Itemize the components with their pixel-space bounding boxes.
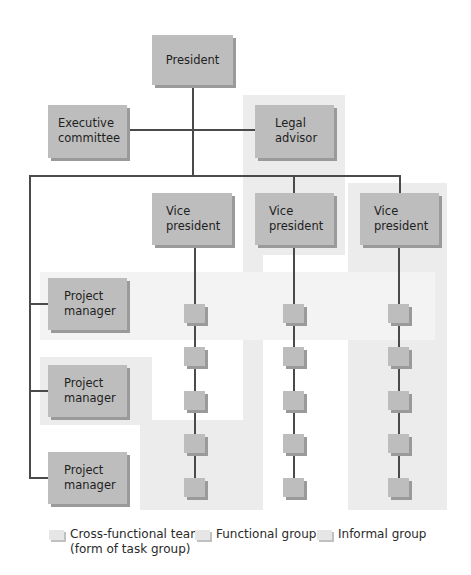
vp2-label-line2: president (269, 219, 334, 234)
legal-advisor-label-line1: Legal (275, 116, 334, 131)
connector-vp3-up (399, 175, 401, 193)
executive-committee-box: Executive committee (48, 105, 127, 158)
legal-advisor-label-line2: advisor (275, 131, 334, 146)
project-manager-box-1: Project manager (48, 278, 127, 330)
legend-item-cross-functional: Cross-functional team (form of task grou… (70, 527, 202, 557)
legend-label-informal: Informal group (338, 527, 426, 541)
subordinate-node (283, 478, 304, 497)
connector-pm3 (29, 477, 48, 479)
subordinate-node (283, 304, 304, 323)
executive-committee-label-line1: Executive (58, 116, 127, 131)
vp1-label-line2: president (166, 219, 232, 234)
subordinate-node (184, 434, 205, 453)
connector-left-trunk (29, 175, 31, 478)
subordinate-node (184, 304, 205, 323)
subordinate-node (283, 347, 304, 366)
functional-swatch-icon (195, 530, 210, 540)
legend-label-cross-functional: Cross-functional team (70, 527, 202, 542)
executive-committee-label-line2: committee (58, 131, 127, 146)
subordinate-node (184, 478, 205, 497)
vice-president-box-3: Vice president (360, 193, 439, 245)
legal-advisor-box: Legal advisor (255, 105, 334, 158)
connector-vp1-column (194, 245, 196, 495)
pm2-label-line2: manager (64, 391, 127, 406)
pm3-label-line1: Project (64, 463, 127, 478)
vp3-label-line1: Vice (374, 204, 439, 219)
vice-president-box-1: Vice president (152, 193, 232, 245)
connector-pm2 (29, 390, 48, 392)
connector-pm1 (29, 303, 48, 305)
org-chart-diagram: President Executive committee Legal advi… (0, 0, 471, 575)
project-manager-box-3: Project manager (48, 452, 127, 504)
pm1-label-line2: manager (64, 304, 127, 319)
legend-label-cross-functional-sub: (form of task group) (70, 542, 202, 557)
connector-vp3-column (398, 245, 400, 495)
subordinate-node (388, 478, 409, 497)
project-manager-box-2: Project manager (48, 365, 127, 417)
vice-president-box-2: Vice president (255, 193, 334, 245)
pm3-label-line2: manager (64, 478, 127, 493)
subordinate-node (283, 434, 304, 453)
connector-exec-legal (127, 129, 255, 131)
subordinate-node (388, 347, 409, 366)
president-label: President (166, 53, 220, 68)
legend-item-functional: Functional group (216, 527, 316, 542)
legend-label-functional: Functional group (216, 527, 316, 541)
president-box: President (152, 35, 233, 85)
subordinate-node (283, 391, 304, 410)
subordinate-node (388, 434, 409, 453)
pm2-label-line1: Project (64, 376, 127, 391)
legend-item-informal: Informal group (338, 527, 426, 542)
connector-vp2-up (293, 175, 295, 193)
vp3-label-line2: president (374, 219, 439, 234)
subordinate-node (184, 347, 205, 366)
vp2-label-line1: Vice (269, 204, 334, 219)
cross-functional-swatch-icon (49, 530, 64, 540)
connector-vp2-column (293, 245, 295, 495)
pm1-label-line1: Project (64, 289, 127, 304)
informal-swatch-icon (317, 530, 332, 540)
subordinate-node (388, 304, 409, 323)
subordinate-node (184, 391, 205, 410)
connector-main-bus (29, 175, 401, 177)
subordinate-node (388, 391, 409, 410)
connector-president-down (192, 85, 194, 177)
vp1-label-line1: Vice (166, 204, 232, 219)
